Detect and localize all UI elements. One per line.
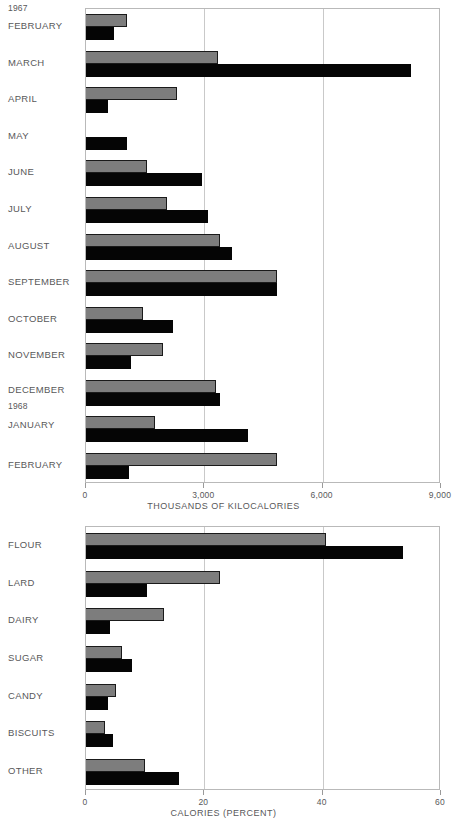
gridline <box>323 527 324 789</box>
bar-black <box>86 546 403 559</box>
bar-gray <box>86 571 220 584</box>
bar-gray <box>86 533 326 546</box>
bar-gray <box>86 684 116 697</box>
bar-gray <box>86 759 145 772</box>
gridline <box>204 527 205 789</box>
category-label: CANDY <box>8 690 43 701</box>
category-label: DAIRY <box>8 614 39 625</box>
category-label: BISCUITS <box>8 727 55 738</box>
axis-tick <box>440 790 441 795</box>
axis-tick <box>203 790 204 795</box>
axis-tick-label: 20 <box>173 797 233 807</box>
axis-tick <box>85 790 86 795</box>
bar-black <box>86 659 132 672</box>
category-label: LARD <box>8 577 35 588</box>
x-axis-title: CALORIES (PERCENT) <box>0 808 447 818</box>
axis-tick-label: 60 <box>410 797 456 807</box>
axis-tick <box>322 790 323 795</box>
axis-tick-label: 0 <box>55 797 115 807</box>
bar-black <box>86 621 110 634</box>
bar-black <box>86 584 147 597</box>
bar-black <box>86 697 108 710</box>
category-label: OTHER <box>8 765 43 776</box>
category-label: FLOUR <box>8 539 42 550</box>
bar-gray <box>86 608 164 621</box>
bar-black <box>86 772 179 785</box>
plot-area <box>85 526 440 790</box>
axis-tick-label: 40 <box>292 797 352 807</box>
bar-black <box>86 734 113 747</box>
bar-gray <box>86 646 122 659</box>
bar-gray <box>86 721 105 734</box>
category-label: SUGAR <box>8 652 44 663</box>
